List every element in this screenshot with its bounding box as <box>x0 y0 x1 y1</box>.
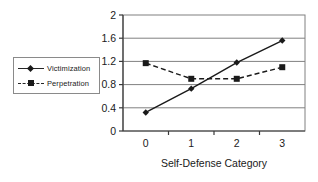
data-point-marker <box>234 76 240 82</box>
x-tick-label: 1 <box>188 137 194 149</box>
x-tick-label: 3 <box>279 137 285 149</box>
y-tick-label: 1.2 <box>101 55 116 67</box>
data-point-marker <box>143 60 149 66</box>
x-tick-label: 0 <box>143 137 149 149</box>
data-point-marker <box>279 64 285 70</box>
y-tick-label: 0 <box>110 125 116 137</box>
y-tick-label: 0.8 <box>101 78 116 90</box>
y-tick-label: 1.6 <box>101 32 116 44</box>
x-axis: 0123 <box>143 131 286 149</box>
plot-area: 00.40.81.21.62 0123 Self-Defense Categor… <box>0 0 318 182</box>
chart-figure: Victimization Perpetration 00.40.81.21.6… <box>0 0 318 182</box>
plot-background <box>123 15 305 131</box>
data-point-marker <box>188 76 194 82</box>
x-tick-label: 2 <box>234 137 240 149</box>
y-tick-label: 2 <box>110 9 116 21</box>
y-axis: 00.40.81.21.62 <box>101 9 123 137</box>
y-tick-label: 0.4 <box>101 102 116 114</box>
x-axis-title: Self-Defense Category <box>161 157 268 169</box>
